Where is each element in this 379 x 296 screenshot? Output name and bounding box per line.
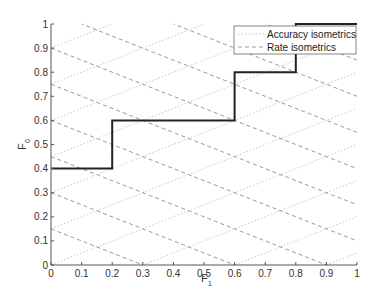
chart: 00.10.20.30.40.50.60.70.80.9100.10.20.30… (0, 0, 379, 296)
x-tick-label: 0 (48, 268, 54, 279)
y-tick-label: 0.1 (34, 235, 48, 246)
accuracy-isometric-line (51, 24, 112, 48)
x-tick-label: 0.6 (228, 268, 242, 279)
x-tick-label: 0.4 (166, 268, 180, 279)
x-tick-label: 0.2 (105, 268, 119, 279)
x-axis-label-subscript: 1 (208, 280, 212, 287)
y-axis-label-main: F (16, 143, 28, 150)
y-tick-label: 1 (42, 19, 48, 30)
x-tick-label: 0.1 (75, 268, 89, 279)
y-axis-label: F 0 (16, 139, 31, 150)
accuracy-isometric-line (326, 253, 357, 265)
y-tick-label: 0.9 (34, 43, 48, 54)
isometric-lines (51, 24, 357, 265)
y-tick-label: 0.3 (34, 187, 48, 198)
x-tick-label: 0.8 (289, 268, 303, 279)
y-axis-label-subscript: 0 (24, 139, 31, 143)
x-axis-label-main: F (201, 272, 208, 284)
legend-label-accuracy: Accuracy isometrics (267, 29, 356, 40)
y-tick-label: 0.2 (34, 211, 48, 222)
y-tick-label: 0.6 (34, 115, 48, 126)
rate-isometric-line (51, 84, 357, 205)
legend: Accuracy isometrics Rate isometrics (234, 26, 356, 54)
x-tick-label: 0.3 (136, 268, 150, 279)
y-tick-label: 0.5 (34, 139, 48, 150)
rate-isometric-line (51, 48, 357, 169)
accuracy-isometric-line (51, 24, 204, 84)
rate-isometric-line (51, 120, 357, 240)
legend-label-rate: Rate isometrics (267, 42, 336, 53)
x-tick-label: 0.7 (258, 268, 272, 279)
y-tick-label: 0.4 (34, 163, 48, 174)
accuracy-isometric-line (143, 181, 357, 265)
x-tick-label: 1 (354, 268, 360, 279)
x-tick-label: 0.9 (319, 268, 333, 279)
y-tick-label: 0.7 (34, 91, 48, 102)
y-tick-label: 0.8 (34, 67, 48, 78)
axes: 00.10.20.30.40.50.60.70.80.9100.10.20.30… (34, 19, 360, 280)
accuracy-isometric-line (235, 217, 357, 265)
y-tick-label: 0 (42, 260, 48, 271)
